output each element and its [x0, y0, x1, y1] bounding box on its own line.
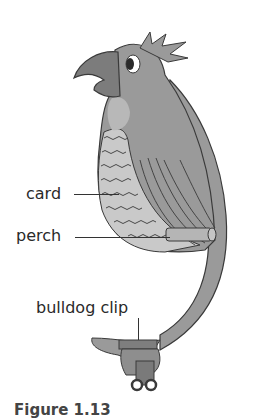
perch [166, 228, 216, 241]
label-perch: perch [16, 228, 61, 244]
label-bulldog-clip: bulldog clip [36, 300, 128, 316]
leader-line-perch [75, 237, 170, 238]
leader-line-clip [138, 318, 139, 340]
leader-line-card [74, 194, 119, 195]
pupil [126, 58, 134, 70]
parrot-beak [74, 52, 120, 97]
figure-caption: Figure 1.13 [14, 403, 111, 418]
bulldog-clip [119, 340, 160, 390]
label-card: card [26, 186, 61, 202]
